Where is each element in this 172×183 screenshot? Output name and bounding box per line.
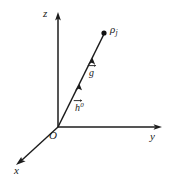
y-axis-label: y <box>150 131 155 142</box>
rho-point-label: ρj <box>110 24 118 37</box>
h-vector-superscript: 0 <box>80 101 84 109</box>
g-vector-symbol: g <box>89 67 94 78</box>
x-axis-label: x <box>14 165 19 176</box>
h-vector-label: h0 <box>75 99 84 113</box>
g-vector-glyph-stack: g <box>89 64 94 78</box>
h-vector-glyph-stack: h <box>75 99 80 113</box>
h-vector-symbol: h <box>75 102 80 113</box>
diagram-canvas <box>0 0 172 183</box>
rho-point-dot <box>101 30 106 35</box>
g-vector-label: g <box>89 64 94 78</box>
vector-diagram-figure: z y x O ρj g h0 <box>0 0 172 183</box>
z-axis-label: z <box>43 8 47 19</box>
rho-symbol: ρ <box>110 23 115 35</box>
position-ray-line <box>58 34 104 127</box>
rho-subscript: j <box>116 28 118 37</box>
origin-label: O <box>49 130 57 141</box>
